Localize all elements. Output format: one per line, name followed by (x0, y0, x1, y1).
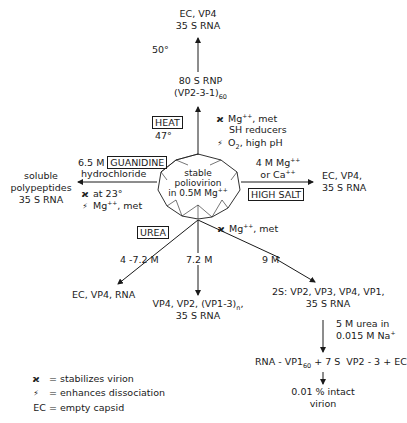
sup: ++ (218, 186, 228, 193)
salt-ca: or Ca (260, 169, 285, 180)
node-top: EC, VP4 35 S RNA (168, 8, 228, 32)
node-rnp-line1: 80 S RNP (163, 75, 238, 87)
legend-item-ec: EC = empty capsid (26, 401, 165, 415)
legend-text: = stabilizes virion (49, 373, 134, 384)
urea-stab-mg: Mg (229, 223, 243, 234)
node-top-line2: 35 S RNA (168, 20, 228, 32)
salt-mg: 4 M Mg (256, 157, 291, 168)
urea-c-line2: 35 S RNA (272, 298, 384, 310)
center-mg: in 0.5M Mg (168, 188, 217, 198)
node-urea-a: EC, VP4, RNA (72, 289, 135, 301)
heat-label: HEAT (152, 116, 183, 129)
sup: + (390, 329, 395, 336)
intact-line2: virion (288, 398, 358, 410)
urea-b-conc: 7.2 M (186, 254, 212, 266)
urea-condition: UREA (137, 227, 169, 239)
node-rnp-line2: (VP2-3-1)60 (163, 87, 238, 99)
high-salt-condition: HIGH SALT (248, 189, 304, 201)
node-right: EC, VP4, 35 S RNA (322, 170, 366, 194)
stabilizes-icon: ϰ (215, 113, 225, 125)
dissociation-icon: ⚡ (80, 201, 90, 213)
urea-b-text: VP4, VP2, (VP1-3) (153, 298, 237, 309)
heat-condition: HEAT (152, 117, 183, 129)
sup: ++ (242, 112, 252, 119)
center-line1: stable (165, 168, 231, 178)
stabilizes-icon: ϰ (216, 223, 226, 235)
sup: ++ (243, 222, 253, 229)
arrow-urea-c (276, 259, 315, 282)
node-center: stable poliovirion in 0.5M Mg++ (165, 168, 231, 198)
node-left: soluble polypeptides 35 S RNA (8, 170, 74, 206)
urea-label: UREA (137, 226, 169, 239)
urea-stabilizer: ϰ Mg++, met (216, 223, 278, 235)
stabilizes-icon: ϰ (80, 188, 90, 200)
urea-c-line1: 2S: VP2, VP3, VP4, VP1, (272, 286, 384, 298)
dialysis-line1: 5 M urea in (336, 318, 395, 330)
urea-stab-met: , met (253, 223, 278, 234)
heat-diss-o2: O (228, 137, 235, 148)
heat-stab-sh: SH reducers (229, 124, 287, 136)
rnp-formula: (VP2-3-1) (174, 87, 219, 98)
guan-dissociation: ⚡ Mg++, met (80, 200, 142, 213)
heat-temp: 47° (155, 130, 172, 142)
dissociation-icon: ⚡ (215, 138, 225, 150)
sup: ++ (290, 156, 300, 163)
legend: ϰ = stabilizes virion ⚡ = enhances disso… (26, 372, 165, 415)
rnp-subscript: 60 (219, 93, 227, 101)
right-line1: EC, VP4, (322, 170, 366, 182)
urea-b-line1: VP4, VP2, (VP1-3)n, (140, 298, 256, 310)
rna-vp1-text: RNA - VP1 (255, 356, 303, 367)
node-rnp: 80 S RNP (VP2-3-1)60 (163, 75, 238, 99)
heat-stab-mg: Mg (228, 113, 242, 124)
legend-item-dissociation: ⚡ = enhances dissociation (26, 386, 165, 401)
heat-stab-met: , met (252, 113, 277, 124)
left-line3: 35 S RNA (8, 194, 74, 206)
stabilizes-icon: ϰ (26, 372, 46, 386)
node-top-line1: EC, VP4 (168, 8, 228, 20)
left-line2: polypeptides (8, 182, 74, 194)
dissociation-icon: ⚡ (26, 387, 46, 401)
guan-stab-text: at 23° (93, 188, 122, 199)
intact-line1: 0.01 % intact (288, 386, 358, 398)
sup: ++ (107, 199, 117, 206)
sup: ++ (286, 168, 296, 175)
node-urea-c: 2S: VP2, VP3, VP4, VP1, 35 S RNA (272, 286, 384, 310)
salt-line1: 4 M Mg++ (248, 157, 308, 169)
guan-hydrochloride: hydrochloride (81, 168, 146, 180)
temp-50: 50° (152, 44, 169, 56)
high-salt-conc: 4 M Mg++ or Ca++ (248, 157, 308, 181)
sub: 60 (303, 362, 311, 370)
legend-item-stabilizes: ϰ = stabilizes virion (26, 372, 165, 386)
high-salt-label: HIGH SALT (248, 188, 304, 201)
legend-ec: EC (26, 401, 46, 415)
salt-line2: or Ca++ (248, 169, 308, 181)
right-line2: 35 S RNA (322, 182, 366, 194)
dialysis-na: 0.015 M Na (336, 330, 390, 341)
guan-diss-met: , met (117, 200, 142, 211)
left-line1: soluble (8, 170, 74, 182)
heat-diss-ph: , high pH (240, 137, 283, 148)
center-line3: in 0.5M Mg++ (165, 188, 231, 198)
urea-a-conc: 4 -7.2 M (120, 254, 159, 266)
guan-diss-mg: Mg (93, 200, 107, 211)
node-urea-b: VP4, VP2, (VP1-3)n, 35 S RNA (140, 298, 256, 322)
guan-conc: 6.5 M (78, 157, 104, 168)
node-intact: 0.01 % intact virion (288, 386, 358, 410)
node-rna-vp1: RNA - VP160 + 7 S VP2 - 3 + EC (255, 356, 407, 368)
heat-dissociation: ⚡ O2, high pH (215, 137, 283, 150)
dialysis-line2: 0.015 M Na+ (336, 330, 395, 342)
urea-b-tail: , (240, 298, 243, 309)
dialysis-condition: 5 M urea in 0.015 M Na+ (336, 318, 395, 342)
rna-vp1-tail: + 7 S VP2 - 3 + EC (311, 356, 407, 367)
legend-text: = empty capsid (49, 402, 124, 413)
urea-c-conc: 9 M (262, 254, 279, 266)
legend-text: = enhances dissociation (49, 387, 165, 398)
